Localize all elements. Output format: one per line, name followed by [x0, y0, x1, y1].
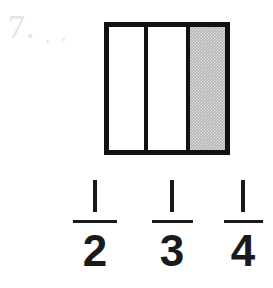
fraction-divider-line	[73, 220, 117, 223]
answer-choice-one-fourth[interactable]: 1 4	[212, 176, 273, 276]
fraction-divider-line	[224, 220, 263, 223]
digit-one-stroke	[170, 180, 174, 212]
numerator: 1	[212, 176, 273, 216]
fraction-divider-line	[152, 220, 193, 223]
denominator: 2	[64, 227, 126, 275]
numerator: 1	[141, 176, 203, 216]
digit-one-stroke	[93, 180, 97, 212]
digit-one-stroke	[241, 180, 245, 212]
fraction-bar-cell-shaded[interactable]	[190, 27, 225, 150]
numerator: 1	[64, 176, 126, 216]
answer-choice-one-third[interactable]: 1 3	[141, 176, 203, 276]
worksheet-page: 7. 1 2 1 3 1	[0, 0, 273, 288]
problem-number: 7.	[8, 8, 36, 46]
fraction-bar-cell[interactable]	[148, 27, 190, 150]
faint-dot-icon	[62, 38, 65, 41]
denominator: 3	[141, 227, 203, 275]
faint-dot-icon	[46, 40, 49, 43]
denominator: 4	[212, 227, 273, 275]
answer-choices-row: 1 2 1 3 1 4	[0, 176, 273, 276]
answer-choice-one-half[interactable]: 1 2	[64, 176, 126, 276]
fraction-bar-diagram	[104, 22, 230, 155]
fraction-bar-cell[interactable]	[109, 27, 148, 150]
